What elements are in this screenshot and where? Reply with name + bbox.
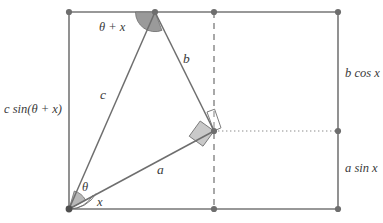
left-edge-label: c sin(θ + x) — [4, 103, 62, 116]
geometry-figure: θ + x c b a θ x c sin(θ + x) b cos x a s… — [0, 0, 383, 223]
right-lower-edge-label: a sin x — [345, 162, 378, 175]
node-origin — [66, 206, 73, 213]
node-apex — [152, 9, 158, 15]
right-upper-edge-label: b cos x — [345, 67, 380, 80]
side-b-label: b — [183, 52, 190, 66]
theta-angle-label: θ — [82, 181, 88, 194]
side-a-line — [69, 131, 214, 209]
node-top-right — [335, 9, 341, 15]
node-bottom-right — [335, 206, 341, 212]
apex-angle-label: θ + x — [99, 21, 125, 34]
node-right-mid — [335, 128, 341, 134]
node-top-divider — [211, 9, 217, 15]
side-c-label: c — [100, 88, 106, 102]
x-angle-label: x — [97, 196, 103, 209]
node-right-angle-vertex — [211, 128, 217, 134]
node-top-left — [66, 9, 72, 15]
apex-angle-sector — [135, 12, 161, 32]
side-a-label: a — [157, 163, 164, 177]
side-b-line — [155, 12, 214, 131]
node-bottom-divider — [211, 206, 217, 212]
